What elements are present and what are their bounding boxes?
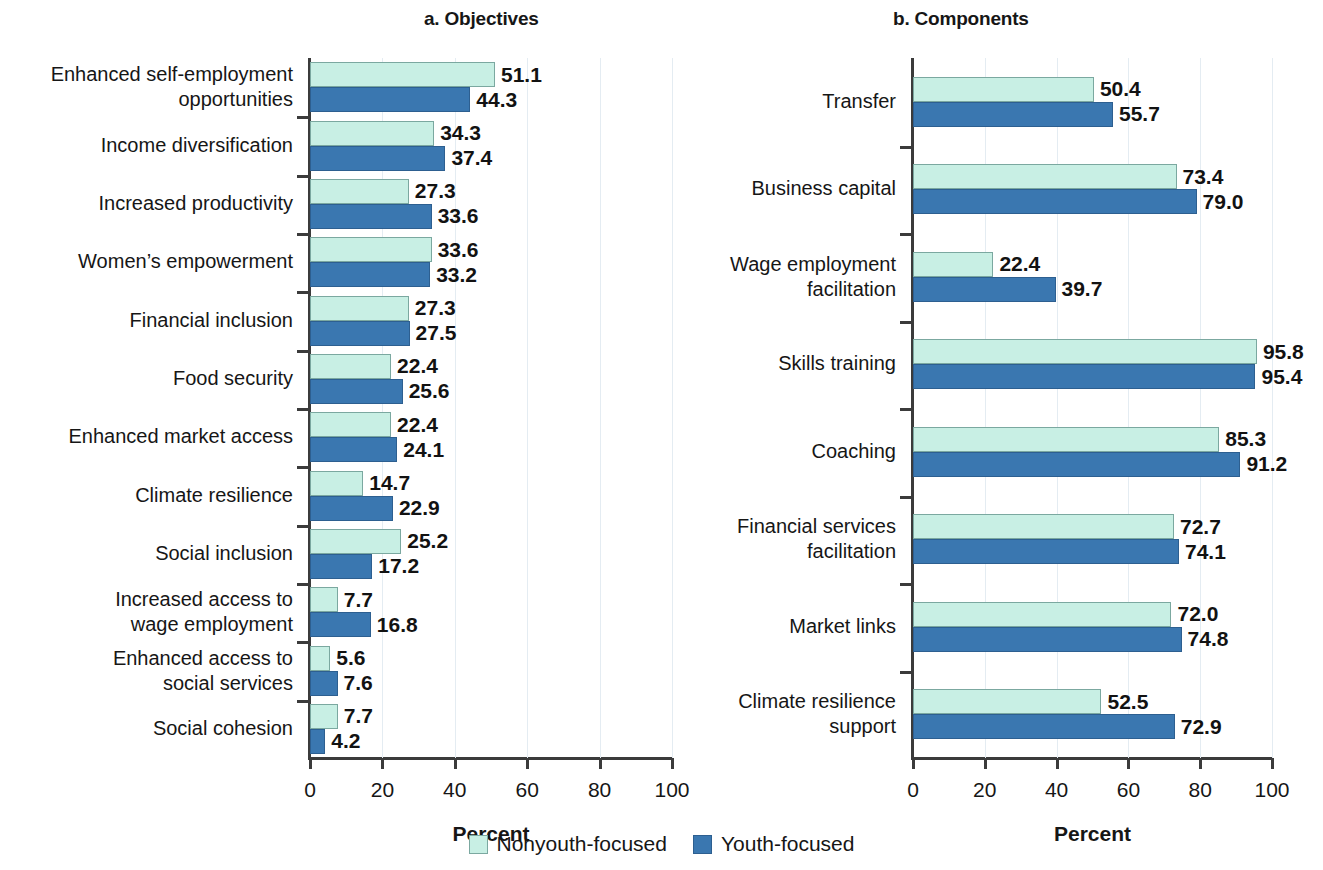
- bar-row: 4.2: [310, 729, 672, 754]
- y-axis-tick: [297, 466, 309, 469]
- gridline: [1057, 58, 1058, 758]
- bar-b-0-youth: [913, 102, 1113, 127]
- x-axis-tick: [1127, 758, 1130, 769]
- bar-a-1-youth: [310, 146, 445, 171]
- bar-row: 27.3: [310, 179, 672, 204]
- bar-row: 72.7: [913, 514, 1272, 539]
- x-axis-tick-label: 60: [1117, 778, 1140, 802]
- bar-row: 25.2: [310, 529, 672, 554]
- category-label-b-3: Skills training: [666, 351, 896, 376]
- bar-value-label: 17.2: [372, 554, 419, 578]
- bar-row: 39.7: [913, 277, 1272, 302]
- category-label-a-7: Climate resilience: [0, 483, 293, 508]
- x-axis-tick-label: 0: [304, 778, 316, 802]
- chart-panel-components: b. Components Percent 020406080100Transf…: [690, 0, 1323, 830]
- gridline: [1200, 58, 1201, 758]
- bar-a-4-nonyouth: [310, 296, 409, 321]
- bar-value-label: 7.7: [338, 588, 373, 612]
- chart-panel-objectives: a. Objectives Percent 020406080100Enhanc…: [0, 0, 690, 830]
- category-label-a-11: Social cohesion: [0, 716, 293, 741]
- category-label-b-0: Transfer: [666, 89, 896, 114]
- bar-b-4-nonyouth: [913, 427, 1219, 452]
- bar-row: 95.8: [913, 339, 1272, 364]
- y-axis-tick: [297, 233, 309, 236]
- bar-value-label: 16.8: [371, 613, 418, 637]
- category-label-b-7: Climate resilience support: [666, 689, 896, 739]
- bar-row: 27.5: [310, 321, 672, 346]
- x-axis-tick-label: 40: [443, 778, 466, 802]
- y-axis-tick: [297, 641, 309, 644]
- x-axis-tick-label: 60: [516, 778, 539, 802]
- gridline: [985, 58, 986, 758]
- bar-a-7-nonyouth: [310, 471, 363, 496]
- x-axis-tick-label: 100: [654, 778, 689, 802]
- bar-value-label: 72.7: [1174, 515, 1221, 539]
- y-axis-tick: [900, 671, 912, 674]
- plot-area-b: Percent 020406080100Transfer50.455.7Busi…: [913, 58, 1272, 758]
- y-axis-tick: [900, 146, 912, 149]
- x-axis-tick-label: 80: [588, 778, 611, 802]
- bar-a-6-nonyouth: [310, 412, 391, 437]
- bar-a-5-nonyouth: [310, 354, 391, 379]
- bar-value-label: 27.3: [409, 179, 456, 203]
- y-axis-tick: [297, 525, 309, 528]
- bar-a-2-youth: [310, 204, 432, 229]
- bar-a-10-nonyouth: [310, 646, 330, 671]
- bar-row: 17.2: [310, 554, 672, 579]
- x-axis-tick: [1271, 758, 1274, 769]
- y-axis-tick: [297, 700, 309, 703]
- bar-b-7-youth: [913, 714, 1175, 739]
- bar-row: 5.6: [310, 646, 672, 671]
- bar-row: 22.4: [310, 412, 672, 437]
- x-axis-tick: [526, 758, 529, 769]
- bar-row: 33.2: [310, 262, 672, 287]
- chart-title-b: b. Components: [690, 8, 1323, 30]
- x-axis-tick: [309, 758, 312, 769]
- bar-a-0-nonyouth: [310, 62, 495, 87]
- bar-a-9-nonyouth: [310, 587, 338, 612]
- bar-value-label: 34.3: [434, 121, 481, 145]
- plot-area-a: Percent 020406080100Enhanced self-employ…: [310, 58, 672, 758]
- x-axis-tick-label: 20: [973, 778, 996, 802]
- bar-a-10-youth: [310, 671, 338, 696]
- bar-a-3-youth: [310, 262, 430, 287]
- bar-row: 22.4: [310, 354, 672, 379]
- bar-a-7-youth: [310, 496, 393, 521]
- bar-value-label: 95.4: [1255, 365, 1302, 389]
- bar-row: 85.3: [913, 427, 1272, 452]
- y-axis-tick: [900, 583, 912, 586]
- bar-b-5-youth: [913, 539, 1179, 564]
- bar-row: 22.4: [913, 252, 1272, 277]
- x-axis-tick: [671, 758, 674, 769]
- bar-value-label: 37.4: [445, 146, 492, 170]
- bar-a-0-youth: [310, 87, 470, 112]
- x-axis-tick: [599, 758, 602, 769]
- bar-value-label: 22.4: [391, 354, 438, 378]
- bar-b-5-nonyouth: [913, 514, 1174, 539]
- legend-item-youth: Youth-focused: [693, 832, 855, 856]
- category-label-a-3: Women’s empowerment: [0, 249, 293, 274]
- bar-b-7-nonyouth: [913, 689, 1101, 714]
- bar-value-label: 22.4: [391, 413, 438, 437]
- bar-b-3-youth: [913, 364, 1255, 389]
- category-label-b-1: Business capital: [666, 176, 896, 201]
- bar-value-label: 95.8: [1257, 340, 1304, 364]
- bar-value-label: 4.2: [325, 729, 360, 753]
- category-label-a-6: Enhanced market access: [0, 424, 293, 449]
- y-axis-tick: [297, 175, 309, 178]
- x-axis-tick: [1199, 758, 1202, 769]
- bar-value-label: 25.2: [401, 529, 448, 553]
- bar-b-1-nonyouth: [913, 164, 1177, 189]
- y-axis-tick: [900, 496, 912, 499]
- bar-value-label: 7.6: [338, 671, 373, 695]
- bar-a-6-youth: [310, 437, 397, 462]
- bar-row: 74.8: [913, 627, 1272, 652]
- x-axis-tick: [454, 758, 457, 769]
- gridline: [1272, 58, 1273, 758]
- x-axis-tick-label: 0: [907, 778, 919, 802]
- bar-a-3-nonyouth: [310, 237, 432, 262]
- bar-b-0-nonyouth: [913, 77, 1094, 102]
- bar-row: 33.6: [310, 237, 672, 262]
- bar-row: 7.6: [310, 671, 672, 696]
- bar-value-label: 72.0: [1171, 602, 1218, 626]
